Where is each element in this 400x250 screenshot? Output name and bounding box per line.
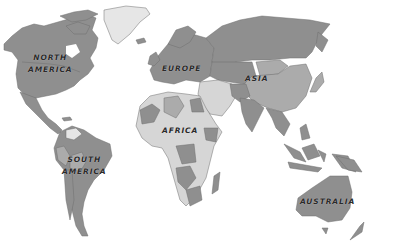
region-south-america bbox=[54, 126, 112, 236]
label-europe: EUROPE bbox=[162, 63, 201, 75]
label-south-america-line2: AMERICA bbox=[62, 166, 107, 178]
label-north-america: NORTH AMERICA bbox=[28, 52, 73, 76]
label-asia: ASIA bbox=[245, 73, 268, 85]
label-north-america-line2: AMERICA bbox=[28, 64, 73, 76]
label-south-america: SOUTH AMERICA bbox=[62, 154, 107, 178]
world-map bbox=[0, 0, 400, 250]
label-africa: AFRICA bbox=[162, 125, 198, 137]
region-russia bbox=[206, 16, 330, 66]
label-south-america-line1: SOUTH bbox=[62, 154, 107, 166]
label-australia: AUSTRALIA bbox=[300, 196, 355, 208]
label-north-america-line1: NORTH bbox=[28, 52, 73, 64]
region-mexico bbox=[20, 92, 62, 134]
